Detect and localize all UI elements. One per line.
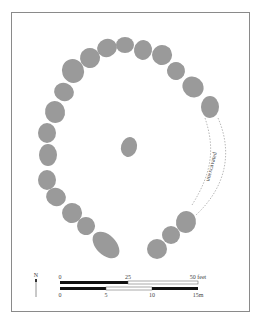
north-label: N [34, 272, 39, 278]
stone [162, 226, 180, 244]
stone [43, 99, 67, 124]
unexcavated-boundary-inner [192, 118, 211, 205]
stone [88, 227, 125, 264]
svg-text:25: 25 [125, 274, 131, 280]
north-arrow-icon [35, 279, 37, 297]
svg-text:10: 10 [149, 292, 155, 298]
svg-text:15m: 15m [193, 292, 204, 298]
site-plan: unexcavated N 0 25 50 feet 0 5 10 15m [0, 0, 261, 323]
stone [39, 144, 57, 166]
stone [52, 80, 77, 104]
scale-bar-meters: 0 5 10 15m [59, 287, 204, 298]
svg-text:5: 5 [105, 292, 108, 298]
center-stone [119, 135, 140, 158]
stone [147, 239, 167, 259]
stone [201, 96, 219, 118]
svg-text:0: 0 [59, 274, 62, 280]
unexcavated-label: unexcavated [204, 151, 218, 182]
stone [132, 39, 153, 62]
scale-bar-feet: 0 25 50 feet [59, 274, 207, 284]
stone [38, 123, 56, 143]
svg-text:50 feet: 50 feet [190, 274, 207, 280]
stone [38, 170, 56, 190]
stones-group [38, 36, 219, 263]
stone [116, 37, 134, 53]
svg-text:0: 0 [59, 292, 62, 298]
